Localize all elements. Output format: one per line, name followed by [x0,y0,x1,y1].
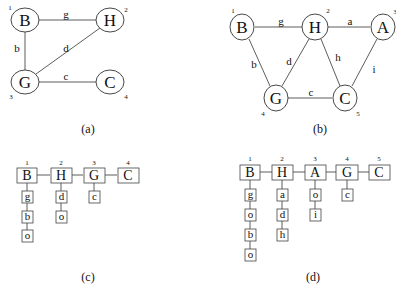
node-index: 2 [59,159,63,167]
edge-label: c [309,86,314,98]
list-item: c [89,190,100,203]
list-head-H: H 2 [51,159,72,183]
node-H: H 2 [96,6,128,32]
list-head-H: H 2 [272,155,293,180]
caption-b: (b) [313,122,327,136]
list-item: c [342,188,353,201]
node-C: C 5 [333,85,360,118]
node-C: C 4 [96,70,128,101]
node-index: 3 [9,93,13,101]
node-index: 4 [345,155,349,163]
node-index: 3 [313,155,317,163]
panel-c-adjacency-list: B 1 H 2 G 3 C 4 g b o d o c (c) [17,159,139,284]
caption-c: (c) [81,270,94,284]
list-item: d [277,208,288,221]
svg-text:H: H [309,18,321,37]
svg-text:A: A [310,165,321,180]
list-item: g [22,190,33,203]
list-item: o [22,229,33,242]
svg-text:B: B [236,18,247,37]
svg-text:o: o [248,208,254,220]
panel-a-graph: g b d c B 1 H 2 G 3 C 4 (a) [8,4,128,136]
list-item: o [56,210,67,223]
caption-d: (d) [306,270,320,284]
node-index: 5 [377,155,381,163]
svg-text:o: o [25,229,31,241]
node-index: 1 [231,7,235,15]
edge-label: g [63,8,69,20]
list-item: a [277,188,288,201]
node-index: 5 [356,110,360,118]
svg-text:C: C [123,168,132,183]
edge-label: i [372,63,375,75]
svg-text:G: G [19,73,31,92]
svg-text:C: C [374,165,383,180]
svg-text:B: B [19,11,30,30]
svg-text:B: B [22,168,31,183]
edge-label: g [278,15,284,27]
list-head-C: C 4 [118,159,139,183]
svg-text:C: C [104,73,115,92]
svg-text:H: H [104,11,116,30]
edge-label: b [14,42,20,54]
edge-label: a [348,15,353,27]
edge-label: h [335,51,341,63]
list-item: o [310,188,321,201]
list-head-G: G 4 [336,155,358,180]
list-head-A: A 3 [305,155,326,180]
svg-text:c: c [345,188,350,200]
node-index: 4 [126,159,130,167]
svg-text:g: g [25,190,31,202]
edge-label: b [251,58,257,70]
edge-label: d [63,42,69,54]
svg-text:i: i [314,208,317,220]
list-head-B: B 1 [17,159,37,183]
svg-text:H: H [277,165,287,180]
svg-text:B: B [245,165,254,180]
svg-text:G: G [89,168,99,183]
list-item: h [277,228,288,241]
svg-text:o: o [59,210,65,222]
node-index: 2 [280,155,284,163]
panel-d-adjacency-list: B 1 H 2 A 3 G 4 C 5 g o b o a d h [240,155,390,284]
node-A: A 3 [371,8,396,40]
list-head-C: C 5 [369,155,390,180]
panel-b-graph: g a b d h i c B 1 H 2 A 3 G 4 C [230,7,396,136]
node-index: 3 [92,159,96,167]
list-item: d [56,190,67,203]
list-item: i [310,208,321,221]
node-index: 4 [124,93,128,101]
list-head-B: B 1 [240,155,260,180]
list-item: b [245,228,256,241]
node-G: G 3 [9,70,39,101]
svg-text:b: b [25,210,31,222]
svg-text:a: a [280,188,285,200]
node-B: B 1 [230,7,254,40]
svg-text:d: d [59,190,65,202]
node-index: 2 [124,6,128,14]
node-index: 4 [261,110,265,118]
node-index: 2 [326,7,330,15]
svg-text:o: o [313,188,319,200]
node-B: B 1 [8,4,39,32]
svg-text:C: C [339,89,350,108]
svg-text:d: d [280,208,286,220]
node-G: G 4 [261,85,288,118]
list-head-G: G 3 [84,159,105,183]
svg-text:A: A [377,18,390,37]
svg-text:G: G [270,89,282,108]
edge-label: c [64,70,69,82]
list-item: o [245,248,256,261]
figure: g b d c B 1 H 2 G 3 C 4 (a) [0,0,396,291]
list-item: b [22,210,33,223]
list-item: o [245,208,256,221]
list-item: g [245,188,256,201]
svg-text:H: H [56,168,66,183]
edge-label: d [286,55,292,67]
svg-text:o: o [248,248,254,260]
svg-text:c: c [92,190,97,202]
node-H: H 2 [302,7,330,40]
node-index: 1 [25,159,29,167]
node-index: 1 [8,4,12,12]
caption-a: (a) [81,122,94,136]
